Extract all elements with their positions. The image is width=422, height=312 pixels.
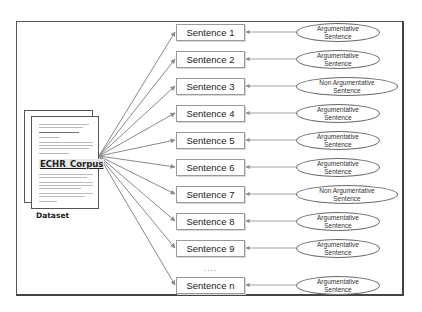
class-label-line1: Non Argumentative bbox=[297, 187, 397, 195]
non-argumentative-label: Non ArgumentativeSentence bbox=[296, 77, 398, 96]
sentence-box: Sentence 9 bbox=[176, 240, 245, 257]
class-label-line2: Sentence bbox=[297, 33, 379, 41]
class-label-line1: Argumentative bbox=[297, 160, 379, 168]
dataset-to-sentence-arrow bbox=[99, 59, 175, 156]
sentence-box: Sentence 8 bbox=[176, 213, 245, 230]
dataset-to-sentence-arrow bbox=[99, 32, 175, 156]
class-label-line2: Sentence bbox=[297, 222, 379, 230]
non-argumentative-label: Non ArgumentativeSentence bbox=[296, 185, 398, 204]
class-label-line2: Sentence bbox=[297, 60, 379, 68]
class-label-line2: Sentence bbox=[297, 168, 379, 176]
dataset-to-sentence-arrow bbox=[99, 140, 175, 156]
dataset-to-sentence-arrow bbox=[99, 156, 175, 248]
argumentative-label: ArgumentativeSentence bbox=[296, 158, 380, 177]
sentence-box: Sentence 5 bbox=[176, 132, 245, 149]
class-label-line2: Sentence bbox=[297, 114, 379, 122]
class-label-line1: Argumentative bbox=[297, 25, 379, 33]
class-label-line1: Argumentative bbox=[297, 133, 379, 141]
sentence-box: Sentence 3 bbox=[176, 78, 245, 95]
sentence-box: Sentence 7 bbox=[176, 186, 245, 203]
document-front-icon: ECHR_Corpus bbox=[31, 116, 99, 209]
class-label-line1: Non Argumentative bbox=[297, 79, 397, 87]
sentence-box: Sentence 1 bbox=[176, 24, 245, 41]
argumentative-label: ArgumentativeSentence bbox=[296, 276, 380, 295]
class-label-line1: Argumentative bbox=[297, 278, 379, 286]
corpus-title: ECHR_Corpus bbox=[39, 159, 104, 169]
class-label-line2: Sentence bbox=[297, 87, 397, 95]
class-label-line1: Argumentative bbox=[297, 241, 379, 249]
sentence-box: Sentence n bbox=[176, 277, 245, 294]
class-label-line1: Argumentative bbox=[297, 214, 379, 222]
dataset-to-sentence-arrow bbox=[99, 113, 175, 156]
class-label-line2: Sentence bbox=[297, 141, 379, 149]
class-label-line2: Sentence bbox=[297, 286, 379, 294]
class-label-line1: Argumentative bbox=[297, 52, 379, 60]
argumentative-label: ArgumentativeSentence bbox=[296, 50, 380, 69]
sentence-box: Sentence 6 bbox=[176, 159, 245, 176]
sentence-box: Sentence 2 bbox=[176, 51, 245, 68]
argumentative-label: ArgumentativeSentence bbox=[296, 104, 380, 123]
dataset-to-sentence-arrow bbox=[99, 86, 175, 156]
class-label-line2: Sentence bbox=[297, 195, 397, 203]
sentence-box: Sentence 4 bbox=[176, 105, 245, 122]
argumentative-label: ArgumentativeSentence bbox=[296, 131, 380, 150]
class-label-line2: Sentence bbox=[297, 249, 379, 257]
argumentative-label: ArgumentativeSentence bbox=[296, 239, 380, 258]
argumentative-label: ArgumentativeSentence bbox=[296, 212, 380, 231]
ellipsis-more-sentences: .... bbox=[176, 264, 245, 273]
dataset-label: Dataset bbox=[36, 211, 69, 220]
argumentative-label: ArgumentativeSentence bbox=[296, 23, 380, 42]
class-label-line1: Argumentative bbox=[297, 106, 379, 114]
